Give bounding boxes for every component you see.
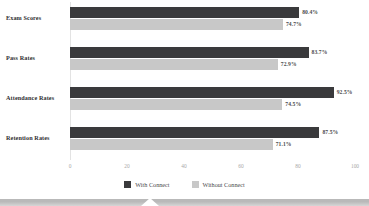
bar-value-label: 83.7% (309, 49, 328, 55)
bar-value-label: 87.5% (319, 129, 338, 135)
bar-value-label: 74.5% (282, 101, 301, 107)
x-axis-tick-label: 80 (295, 163, 300, 169)
chart-category-group: Exam Scores80.4%74.7% (0, 2, 369, 42)
bar-with-connect[interactable] (70, 47, 309, 58)
bar-without-connect[interactable] (70, 59, 278, 70)
chart-category-group: Pass Rates83.7%72.9% (0, 42, 369, 82)
chart-category-group: Retention Rates87.5%71.1% (0, 122, 369, 162)
bar-without-connect[interactable] (70, 99, 282, 110)
category-label: Pass Rates (6, 54, 66, 62)
x-axis-tick-label: 40 (181, 163, 186, 169)
legend-item[interactable]: Without Connect (192, 181, 245, 188)
legend-item[interactable]: With Connect (124, 181, 169, 188)
bar-value-label: 71.1% (273, 141, 292, 147)
x-axis-tick-label: 0 (69, 163, 72, 169)
legend-label: Without Connect (203, 181, 245, 188)
bar-row: 72.9% (70, 59, 355, 70)
chart-category-group: Attendance Rates92.5%74.5% (0, 82, 369, 122)
bar-with-connect[interactable] (70, 127, 319, 138)
legend-swatch-icon (192, 181, 199, 188)
bar-value-label: 74.7% (283, 21, 302, 27)
category-label: Retention Rates (6, 134, 66, 142)
bar-row: 92.5% (70, 87, 355, 98)
x-axis-tick-label: 20 (124, 163, 129, 169)
chart-legend: With ConnectWithout Connect (0, 181, 369, 188)
legend-swatch-icon (124, 181, 131, 188)
bar-value-label: 80.4% (299, 9, 318, 15)
bar-row: 71.1% (70, 139, 355, 150)
x-axis-tick-label: 100 (351, 163, 359, 169)
bar-row: 74.7% (70, 19, 355, 30)
x-axis: 020406080100 (70, 163, 355, 177)
bar-without-connect[interactable] (70, 19, 283, 30)
bar-row: 83.7% (70, 47, 355, 58)
bar-with-connect[interactable] (70, 7, 299, 18)
bar-without-connect[interactable] (70, 139, 273, 150)
bar-chart: Exam Scores80.4%74.7%Pass Rates83.7%72.9… (0, 0, 369, 206)
bar-row: 87.5% (70, 127, 355, 138)
chevron-up-notch-icon (141, 198, 159, 206)
x-axis-tick-label: 60 (238, 163, 243, 169)
bar-value-label: 92.5% (334, 89, 353, 95)
bar-row: 74.5% (70, 99, 355, 110)
bar-value-label: 72.9% (278, 61, 297, 67)
category-label: Exam Scores (6, 14, 66, 22)
category-label: Attendance Rates (6, 94, 66, 102)
bar-row: 80.4% (70, 7, 355, 18)
legend-label: With Connect (135, 181, 169, 188)
footer-band (0, 199, 369, 206)
bar-with-connect[interactable] (70, 87, 334, 98)
